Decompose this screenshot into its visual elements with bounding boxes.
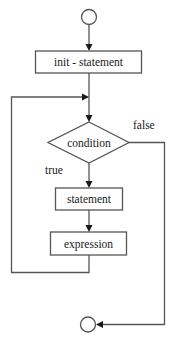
edge-condition-to-statement xyxy=(86,163,93,188)
arrowhead-icon xyxy=(86,44,93,51)
arrowhead-icon xyxy=(86,115,93,122)
flowchart-canvas: init - statement condition false true st… xyxy=(0,0,170,342)
arrowhead-icon xyxy=(86,225,93,232)
condition-node: condition xyxy=(48,122,129,163)
end-node xyxy=(81,317,96,332)
arrowhead-icon xyxy=(82,94,89,101)
init-statement-label: init - statement xyxy=(54,56,124,68)
false-label: false xyxy=(133,119,155,131)
edge-start-to-init xyxy=(86,25,93,51)
condition-label: condition xyxy=(67,137,111,149)
statement-node: statement xyxy=(56,188,123,210)
init-statement-node: init - statement xyxy=(36,51,142,73)
start-node xyxy=(82,10,97,25)
expression-node: expression xyxy=(51,232,127,255)
expression-label: expression xyxy=(64,238,113,251)
arrowhead-icon xyxy=(96,321,103,328)
arrowhead-icon xyxy=(86,181,93,188)
true-label: true xyxy=(45,164,63,176)
edge-statement-to-expression xyxy=(86,210,93,232)
statement-label: statement xyxy=(67,193,112,205)
